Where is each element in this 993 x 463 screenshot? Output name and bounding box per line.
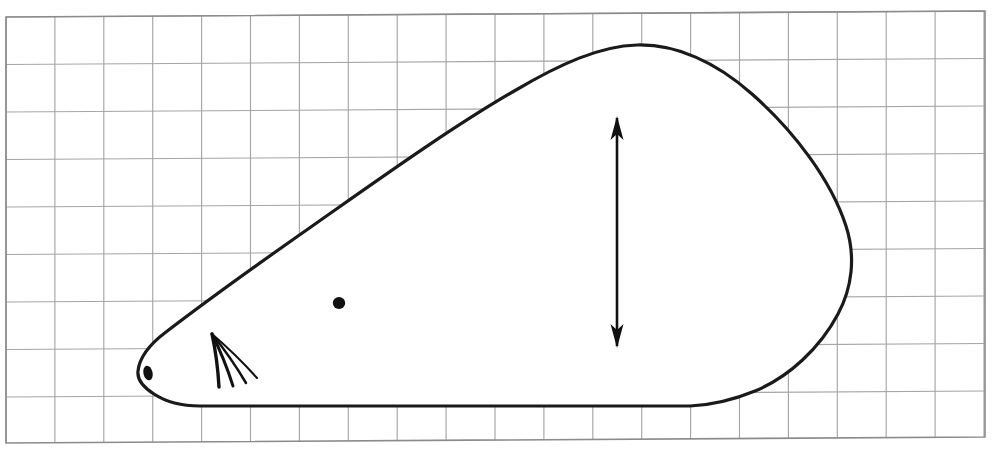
figure-page	[0, 0, 993, 463]
eye-dot	[333, 297, 345, 309]
sketch-figure	[0, 0, 993, 463]
